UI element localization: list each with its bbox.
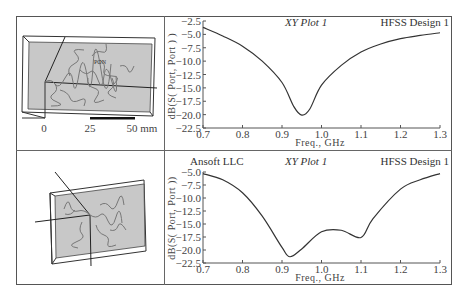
design-name: HFSS Design 1 <box>381 155 449 167</box>
y-tick-label: −7.5 <box>181 179 201 191</box>
y-tick-label: −20.0 <box>176 244 202 256</box>
y-tick-label: −10.0 <box>176 192 202 204</box>
x-tick-label: 0.9 <box>275 263 289 275</box>
plot-title: XY Plot 1 <box>284 155 327 167</box>
x-tick-label: 1.1 <box>354 263 368 275</box>
bottom-axes: −5.0−7.5−10.0−12.5−15.0−17.5−20.0−22.50.… <box>176 166 448 275</box>
x-tick-label: 1.2 <box>394 263 408 275</box>
s11-curve-bottom <box>203 174 440 257</box>
y-axis-title: dB(S( Port, Port )) <box>166 176 178 259</box>
plot-bottom: Ansoft LLC XY Plot 1 HFSS Design 1 −5.0−… <box>0 0 467 302</box>
x-tick-label: 0.7 <box>196 263 210 275</box>
x-axis-title: Freq., GHz <box>295 272 345 283</box>
y-tick-label: −12.5 <box>176 205 202 217</box>
x-tick-label: 0.8 <box>236 263 250 275</box>
x-tick-label: 1.3 <box>433 263 447 275</box>
y-tick-label: −17.5 <box>176 231 202 243</box>
y-tick-label: −5.0 <box>181 166 201 178</box>
y-tick-label: −15.0 <box>176 218 202 230</box>
